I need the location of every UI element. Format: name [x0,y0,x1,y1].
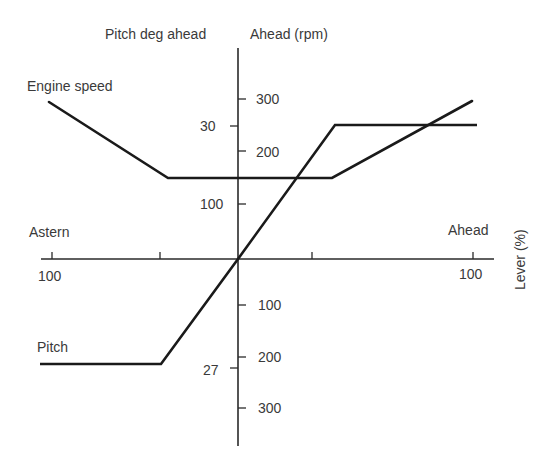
rpm-label-100-left: 100 [200,196,223,212]
rpm-label-neg-300: 300 [258,400,281,416]
pitch-axis-title: Pitch deg ahead [105,26,206,42]
lever-pitch-rpm-diagram: Pitch deg ahead Ahead (rpm) Engine speed… [0,0,554,459]
pitch-label-30: 30 [200,118,216,134]
astern-label: Astern [29,224,69,240]
rpm-axis-title: Ahead (rpm) [250,26,328,42]
pitch-line [40,125,477,364]
rpm-label-300: 300 [256,91,279,107]
x-label-astern-100: 100 [38,268,61,284]
x-label-ahead-100: 100 [459,266,482,282]
rpm-label-neg-200: 200 [258,349,281,365]
ahead-label: Ahead [448,222,488,238]
pitch-label: Pitch [37,339,68,355]
rpm-label-200: 200 [256,144,279,160]
engine-speed-label: Engine speed [27,78,113,94]
lever-axis-title: Lever (%) [512,229,528,290]
engine-speed-line [49,101,472,178]
rpm-label-neg-100: 100 [258,297,281,313]
pitch-label-27: 27 [203,362,219,378]
